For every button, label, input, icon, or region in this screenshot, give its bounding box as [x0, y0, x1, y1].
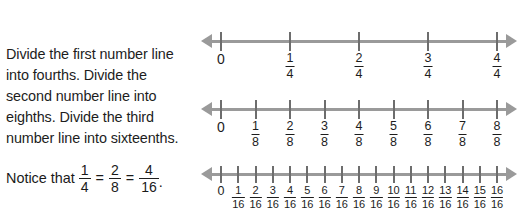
tick-mark: [341, 166, 343, 183]
tick-label-value: 0: [217, 52, 225, 66]
fraction-numerator: 1: [235, 185, 241, 197]
fraction-numerator: 3: [424, 52, 433, 66]
fraction-denominator: 16: [267, 197, 279, 210]
tick-mark: [427, 32, 429, 51]
tick-label-zero: 0: [218, 185, 225, 198]
fraction-denominator: 8: [251, 134, 260, 149]
tick-mark: [358, 166, 360, 183]
fraction-numerator: 10: [387, 185, 399, 197]
tick-label-fraction: 716: [336, 185, 348, 210]
tick-mark: [324, 100, 326, 119]
tick-mark: [289, 100, 291, 119]
fraction-denominator: 16: [249, 197, 261, 210]
tick-mark: [306, 166, 308, 183]
fraction-numerator: 1: [286, 52, 295, 66]
tick-mark: [324, 166, 326, 183]
tick-mark: [358, 32, 360, 51]
fraction-numerator: 11: [405, 185, 416, 197]
tick-mark: [220, 100, 222, 119]
tick-mark: [462, 166, 464, 183]
tick-label-fraction: 416: [284, 185, 296, 210]
fraction-denominator: 16: [370, 197, 382, 210]
fraction-numerator: 2: [286, 120, 295, 134]
fraction-denominator: 16: [353, 197, 365, 210]
fraction-denominator: 16: [336, 197, 348, 210]
fraction-numerator: 4: [287, 185, 293, 197]
tick-label-fraction: 316: [267, 185, 279, 210]
fraction-denominator: 16: [387, 197, 399, 210]
tick-mark: [410, 166, 412, 183]
fraction-numerator: 6: [424, 120, 433, 134]
fraction-numerator: 5: [304, 185, 310, 197]
fraction-numerator: 2: [355, 52, 364, 66]
arrow-right-icon: [506, 167, 517, 181]
tick-label-fraction: 48: [355, 120, 364, 148]
tick-mark: [496, 32, 498, 51]
tick-label-fraction: 34: [424, 52, 433, 80]
fraction-denominator: 8: [424, 134, 433, 149]
fraction-numerator: 12: [422, 185, 434, 197]
fraction-numerator: 13: [439, 185, 451, 197]
tick-mark: [255, 166, 257, 183]
fraction-numerator: 2: [252, 185, 258, 197]
tick-label-fraction: 1516: [474, 185, 486, 210]
fraction-denominator: 16: [474, 197, 486, 210]
fraction-denominator: 8: [389, 134, 398, 149]
tick-label-fraction: 78: [458, 120, 467, 148]
tick-label-fraction: 216: [249, 185, 261, 210]
fraction-denominator: 16: [318, 197, 330, 210]
fraction-denominator: 8: [458, 134, 467, 149]
fraction-denominator: 4: [355, 66, 364, 81]
fraction-denominator: 16: [284, 197, 296, 210]
tick-label-zero: 0: [217, 120, 225, 134]
tick-label-fraction: 38: [320, 120, 329, 148]
tick-mark: [496, 100, 498, 119]
tick-label-fraction: 1416: [456, 185, 468, 210]
arrow-right-icon: [506, 102, 517, 116]
tick-mark: [220, 32, 222, 51]
tick-label-fraction: 816: [353, 185, 365, 210]
fraction-numerator: 15: [474, 185, 486, 197]
tick-label-fraction: 1316: [439, 185, 451, 210]
fraction-denominator: 8: [286, 134, 295, 149]
tick-label-zero: 0: [217, 52, 225, 66]
tick-mark: [427, 100, 429, 119]
tick-mark: [375, 166, 377, 183]
tick-mark: [496, 166, 498, 183]
fraction-numerator: 14: [456, 185, 468, 197]
fraction-denominator: 16: [491, 197, 503, 210]
tick-label-fraction: 18: [251, 120, 260, 148]
tick-label-fraction: 516: [301, 185, 313, 210]
tick-label-value: 0: [218, 185, 225, 198]
fraction-numerator: 16: [491, 185, 503, 197]
number-line-fourths: 014243444: [0, 18, 522, 82]
tick-label-fraction: 916: [370, 185, 382, 210]
tick-mark: [479, 166, 481, 183]
tick-mark: [255, 100, 257, 119]
fraction-denominator: 4: [286, 66, 295, 81]
fraction-numerator: 6: [321, 185, 327, 197]
tick-mark: [272, 166, 274, 183]
fraction-numerator: 4: [493, 52, 502, 66]
tick-mark: [289, 166, 291, 183]
tick-label-fraction: 68: [424, 120, 433, 148]
fraction-denominator: 16: [422, 197, 434, 210]
fraction-numerator: 3: [270, 185, 276, 197]
fraction-denominator: 8: [320, 134, 329, 149]
tick-mark: [220, 166, 222, 183]
tick-label-fraction: 1116: [405, 185, 417, 210]
tick-mark: [462, 100, 464, 119]
arrow-right-icon: [506, 34, 517, 48]
fraction-denominator: 4: [424, 66, 433, 81]
tick-mark: [358, 100, 360, 119]
fraction-numerator: 3: [320, 120, 329, 134]
fraction-numerator: 9: [373, 185, 379, 197]
tick-mark: [444, 166, 446, 183]
number-line-eighths: 01828384858687888: [0, 86, 522, 150]
fraction-numerator: 4: [355, 120, 364, 134]
fraction-denominator: 8: [493, 134, 502, 149]
tick-mark: [237, 166, 239, 183]
tick-label-fraction: 44: [493, 52, 502, 80]
fraction-denominator: 16: [405, 197, 417, 210]
tick-label-fraction: 28: [286, 120, 295, 148]
